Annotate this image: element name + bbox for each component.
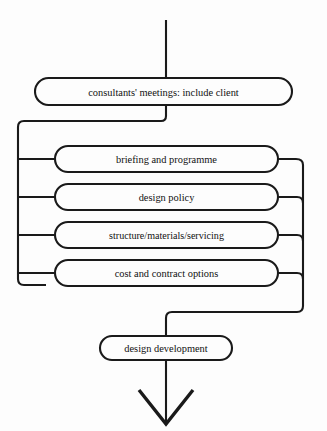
- node-consultants-meetings[interactable]: consultants' meetings: include client: [35, 78, 292, 105]
- node-design-development[interactable]: design development: [100, 336, 232, 360]
- connector-design-policy-to-right-bus: [278, 197, 303, 203]
- connector-structure-to-right-bus: [278, 235, 303, 241]
- node-design-policy-label: design policy: [139, 192, 196, 203]
- node-cost-and-contract-options-label: cost and contract options: [115, 268, 219, 279]
- flowchart-canvas: consultants' meetings: include client br…: [0, 0, 327, 431]
- node-briefing-and-programme-label: briefing and programme: [116, 154, 217, 165]
- node-consultants-meetings-label: consultants' meetings: include client: [88, 87, 239, 98]
- node-cost-and-contract-options[interactable]: cost and contract options: [55, 260, 278, 286]
- connector-cost-to-right-bus: [278, 273, 303, 279]
- node-structure-materials-servicing[interactable]: structure/materials/servicing: [55, 222, 278, 248]
- flowchart-diagram: consultants' meetings: include client br…: [0, 0, 327, 431]
- node-design-policy[interactable]: design policy: [55, 184, 278, 210]
- node-structure-materials-servicing-label: structure/materials/servicing: [109, 230, 224, 241]
- node-briefing-and-programme[interactable]: briefing and programme: [55, 146, 278, 172]
- node-design-development-label: design development: [124, 343, 208, 354]
